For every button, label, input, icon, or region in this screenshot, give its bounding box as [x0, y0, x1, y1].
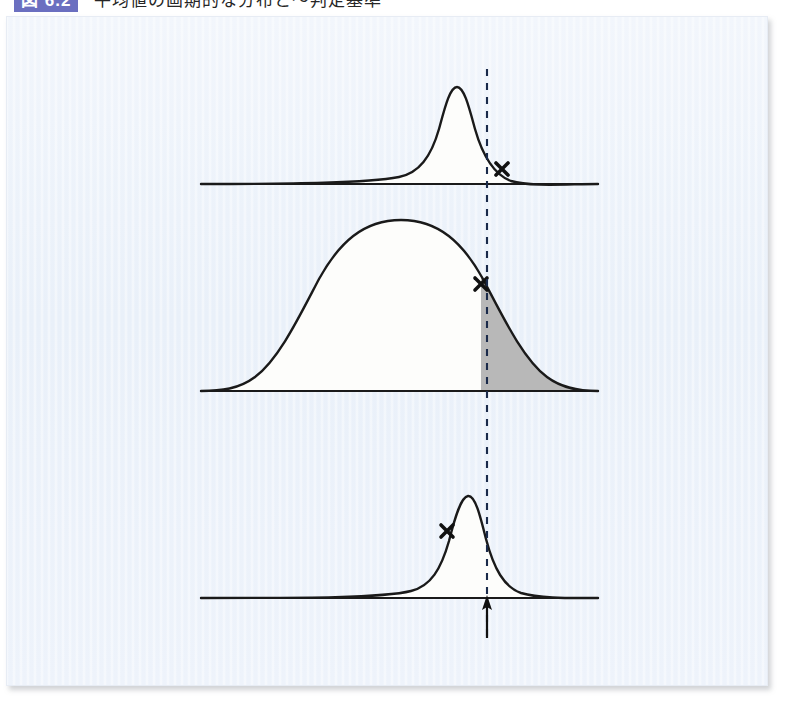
critical-value-arrow	[482, 595, 492, 638]
scanned-figure-frame	[6, 16, 768, 686]
top-panel	[201, 87, 598, 185]
figure-caption-text: 平均値の画期的な分布と〜判定基準	[94, 0, 382, 10]
middle-curve-fill	[201, 220, 598, 391]
top-distribution-curve	[201, 87, 598, 185]
figure-caption: 図 6.2平均値の画期的な分布と〜判定基準	[14, 0, 382, 12]
top-curve-fill	[201, 87, 598, 185]
bottom-curve-fill	[201, 496, 598, 598]
top-panel-x-marker	[496, 163, 508, 175]
bottom-distribution-curve	[201, 496, 598, 598]
distribution-figure	[7, 17, 767, 685]
figure-page: 図 6.2平均値の画期的な分布と〜判定基準	[0, 0, 808, 705]
bottom-panel	[201, 496, 598, 598]
figure-caption-strip: 図 6.2平均値の画期的な分布と〜判定基準	[0, 0, 808, 12]
figure-number-label: 図 6.2	[14, 0, 78, 12]
middle-panel	[201, 220, 598, 391]
